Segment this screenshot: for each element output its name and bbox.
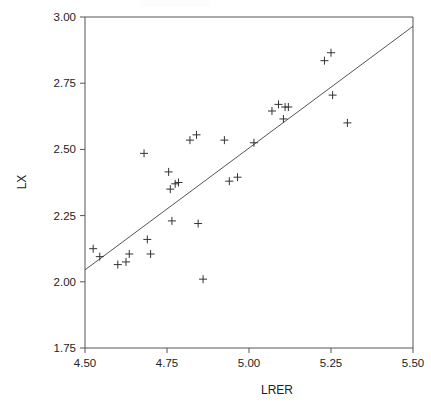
- data-point-marker: [140, 149, 148, 157]
- scatter-plot-figure: 1.752.002.252.502.753.004.504.755.005.25…: [0, 0, 431, 412]
- plot-canvas: 1.752.002.252.502.753.004.504.755.005.25…: [0, 0, 431, 412]
- data-point-marker: [147, 250, 155, 258]
- x-tick-label: 5.25: [320, 357, 342, 369]
- y-tick-label: 2.75: [54, 77, 76, 89]
- x-tick-label: 4.75: [156, 357, 178, 369]
- data-point-marker: [89, 245, 97, 253]
- data-point-marker: [220, 136, 228, 144]
- y-tick-label: 2.00: [54, 276, 76, 288]
- x-tick-label: 4.50: [74, 357, 96, 369]
- data-point-marker: [114, 261, 122, 269]
- data-point-marker: [320, 57, 328, 65]
- y-tick-label: 2.50: [54, 143, 76, 155]
- data-point-marker: [199, 275, 207, 283]
- data-point-marker: [193, 131, 201, 139]
- data-point-marker: [250, 139, 258, 147]
- data-point-marker: [122, 258, 130, 266]
- data-point-marker: [234, 173, 242, 181]
- data-point-marker: [125, 250, 133, 258]
- data-point-marker: [268, 107, 276, 115]
- y-axis-title: LX: [15, 175, 29, 190]
- y-tick-label: 2.25: [54, 210, 76, 222]
- data-point-marker: [327, 49, 335, 57]
- x-tick-label: 5.00: [238, 357, 260, 369]
- data-point-marker: [143, 235, 151, 243]
- data-point-marker: [186, 136, 194, 144]
- data-point-marker: [194, 220, 202, 228]
- y-tick-label: 1.75: [54, 342, 76, 354]
- x-axis-title: LRER: [261, 383, 293, 397]
- data-point-marker: [165, 168, 173, 176]
- data-point-marker: [166, 185, 174, 193]
- x-tick-label: 5.50: [402, 357, 424, 369]
- data-point-group: [89, 49, 351, 283]
- regression-line: [85, 26, 413, 270]
- data-point-marker: [343, 119, 351, 127]
- data-point-marker: [225, 177, 233, 185]
- data-point-marker: [168, 217, 176, 225]
- data-point-marker: [279, 115, 287, 123]
- data-point-marker: [96, 253, 104, 261]
- y-tick-label: 3.00: [54, 11, 76, 23]
- data-point-marker: [329, 91, 337, 99]
